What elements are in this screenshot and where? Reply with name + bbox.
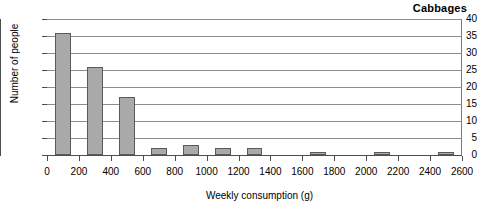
x-tick-mark [79, 156, 80, 161]
bar [247, 148, 263, 155]
x-tick-mark [334, 156, 335, 161]
x-tick-mark [398, 156, 399, 161]
bar [183, 145, 199, 155]
gridline [47, 104, 462, 105]
bar [151, 148, 167, 155]
gridline [47, 70, 462, 71]
x-tick-mark [366, 156, 367, 161]
chart-title: Cabbages [413, 2, 467, 14]
bar [438, 152, 454, 155]
x-tick-mark [207, 156, 208, 161]
gridline [47, 87, 462, 88]
x-tick-mark [302, 156, 303, 161]
gridline [47, 36, 462, 37]
x-tick-mark [239, 156, 240, 161]
gridline [47, 19, 462, 20]
x-tick-label: 2600 [442, 166, 482, 177]
bar [374, 152, 390, 155]
y-axis-line [0, 19, 1, 156]
x-axis-label: Weekly consumption (g) [164, 190, 313, 201]
y-axis-label: Number of people [9, 9, 20, 119]
bar [310, 152, 326, 155]
bar [87, 67, 103, 155]
gridline [47, 53, 462, 54]
x-tick-mark [47, 156, 48, 161]
bar [55, 33, 71, 155]
x-axis-line [47, 155, 462, 156]
x-tick-mark [111, 156, 112, 161]
x-tick-mark [143, 156, 144, 161]
x-axis-label-wrap: Weekly consumption (g) [0, 190, 477, 201]
plot-area [47, 19, 462, 155]
x-tick-mark [270, 156, 271, 161]
gridline [47, 138, 462, 139]
x-tick-mark [462, 156, 463, 161]
gridline [47, 121, 462, 122]
x-tick-mark [430, 156, 431, 161]
bar [215, 148, 231, 155]
bar [119, 97, 135, 155]
x-tick-mark [175, 156, 176, 161]
